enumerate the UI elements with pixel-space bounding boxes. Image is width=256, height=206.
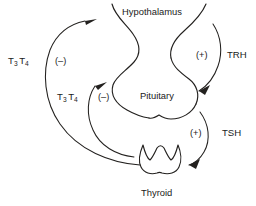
thyroid-label: Thyroid [141,187,172,198]
tsh-arrow [189,112,208,165]
negative-sign-inner: (–) [98,92,109,102]
hpt-axis-diagram: Hypothalamus Pituitary Thyroid T3T4 T3T4… [0,0,256,206]
tsh-label: TSH [222,127,241,138]
pituitary-outline-bottom [149,104,196,119]
trh-label: TRH [227,49,247,60]
feedback-arrow-hypothalamus-head [85,19,97,25]
hypothalamus-label: Hypothalamus [122,6,182,17]
feedback-arrow-pituitary-head [95,82,107,90]
pituitary-outline-right [171,58,198,104]
negative-sign-outer: (–) [55,56,66,66]
pituitary-label: Pituitary [140,90,174,101]
feedback-arrow-pituitary [88,86,134,157]
positive-sign-trh: (+) [196,50,207,60]
positive-sign-tsh: (+) [190,128,201,138]
t3t4-inner-label: T3T4 [57,91,78,103]
diagram-canvas: Hypothalamus Pituitary Thyroid T3T4 T3T4… [0,0,256,206]
thyroid-outline [140,145,181,174]
t3t4-outer-label: T3T4 [8,55,29,67]
